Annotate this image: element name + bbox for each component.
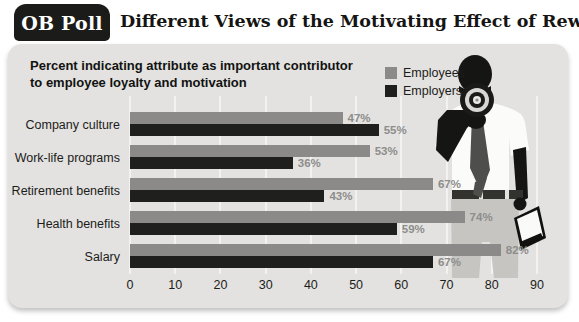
x-tick-label: 60	[394, 278, 408, 292]
employees-bar	[130, 145, 370, 157]
employees-bar	[130, 112, 343, 124]
bar-line: 53%	[130, 145, 546, 157]
value-label: 47%	[348, 112, 371, 124]
value-label: 67%	[438, 256, 461, 268]
legend-item-employees: Employees	[385, 64, 465, 82]
bar-line: 36%	[130, 157, 546, 169]
chart-title: Percent indicating attribute as importan…	[30, 57, 353, 91]
bar-group: 74%59%	[130, 207, 546, 240]
bar-line: 55%	[130, 124, 546, 136]
chart-row: Health benefits74%59%	[8, 207, 546, 240]
chart-row: Salary82%67%	[8, 240, 546, 273]
bar-rows: Company culture47%55%Work-life programs5…	[8, 108, 546, 273]
employees-swatch-icon	[385, 67, 397, 79]
value-label: 43%	[329, 190, 352, 202]
ob-poll-badge-label: OB Poll	[21, 12, 103, 34]
x-tick-label: 90	[530, 278, 544, 292]
employers-bar	[130, 157, 293, 169]
x-tick-label: 80	[485, 278, 499, 292]
x-axis: 0102030405060708090	[130, 278, 546, 294]
employees-bar	[130, 211, 465, 223]
x-tick-label: 20	[213, 278, 227, 292]
category-label: Work-life programs	[8, 141, 130, 174]
x-tick-label: 40	[304, 278, 318, 292]
chart-title-line-2: to employee loyalty and motivation	[30, 74, 353, 91]
bar-group: 53%36%	[130, 141, 546, 174]
employees-bar	[130, 244, 501, 256]
chart-panel: Percent indicating attribute as importan…	[8, 44, 568, 308]
bar-line: 82%	[130, 244, 546, 256]
value-label: 36%	[298, 157, 321, 169]
ob-poll-infographic: { "header": { "badge_label": "OB Poll", …	[0, 0, 579, 322]
category-label: Salary	[8, 240, 130, 273]
x-tick-label: 10	[168, 278, 182, 292]
bar-line: 74%	[130, 211, 546, 223]
value-label: 74%	[470, 211, 493, 223]
employers-swatch-icon	[385, 85, 397, 97]
legend-item-employers: Employers	[385, 82, 465, 100]
chart-row: Work-life programs53%36%	[8, 141, 546, 174]
ob-poll-badge: OB Poll	[14, 4, 110, 41]
category-label: Retirement benefits	[8, 174, 130, 207]
category-label: Company culture	[8, 108, 130, 141]
category-label: Health benefits	[8, 207, 130, 240]
x-tick-label: 50	[349, 278, 363, 292]
value-label: 59%	[402, 223, 425, 235]
bar-line: 43%	[130, 190, 546, 202]
value-label: 55%	[384, 124, 407, 136]
bar-group: 47%55%	[130, 108, 546, 141]
value-label: 67%	[438, 178, 461, 190]
legend: Employees Employers	[385, 64, 465, 100]
bar-line: 67%	[130, 178, 546, 190]
x-tick-label: 30	[259, 278, 273, 292]
x-tick-label: 0	[127, 278, 134, 292]
employers-bar	[130, 256, 433, 268]
bar-group: 67%43%	[130, 174, 546, 207]
chart-row: Retirement benefits67%43%	[8, 174, 546, 207]
x-tick-label: 70	[440, 278, 454, 292]
employers-bar	[130, 223, 397, 235]
bar-line: 67%	[130, 256, 546, 268]
page-title: Different Views of the Motivating Effect…	[120, 11, 575, 31]
value-label: 53%	[375, 145, 398, 157]
bar-line: 59%	[130, 223, 546, 235]
employers-bar	[130, 124, 379, 136]
bar-line: 47%	[130, 112, 546, 124]
chart-row: Company culture47%55%	[8, 108, 546, 141]
employers-bar	[130, 190, 324, 202]
chart-title-line-1: Percent indicating attribute as importan…	[30, 57, 353, 74]
value-label: 82%	[506, 244, 529, 256]
legend-label-employees: Employees	[403, 66, 465, 80]
employees-bar	[130, 178, 433, 190]
legend-label-employers: Employers	[403, 84, 462, 98]
bar-group: 82%67%	[130, 240, 546, 273]
